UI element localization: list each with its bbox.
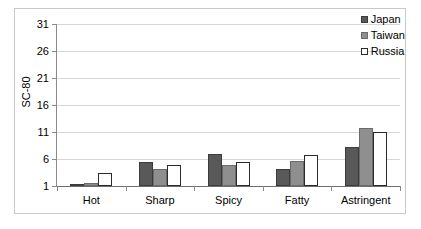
gridline <box>57 132 400 133</box>
y-axis-tick <box>52 105 57 106</box>
bar-russia-sharp <box>167 165 181 186</box>
bar-japan-sharp <box>139 162 153 186</box>
legend-swatch-icon <box>361 32 368 39</box>
legend-swatch-icon <box>361 16 368 23</box>
x-axis-line <box>56 186 400 187</box>
bar-russia-spicy <box>236 162 250 186</box>
x-axis-tick <box>400 186 401 191</box>
bar-taiwan-astringent <box>359 128 373 186</box>
bar-taiwan-spicy <box>222 165 236 186</box>
y-axis-tick-label: 1 <box>43 180 49 192</box>
y-axis-tick-label: 6 <box>43 153 49 165</box>
x-axis-tick-label: Spicy <box>215 194 242 206</box>
plot-area: 161116212631 HotSharpSpicyFattyAstringen… <box>57 24 400 186</box>
gridline <box>57 105 400 106</box>
bar-taiwan-fatty <box>290 161 304 186</box>
bar-russia-fatty <box>304 155 318 186</box>
x-axis-tick <box>126 186 127 191</box>
bar-russia-astringent <box>373 132 387 186</box>
y-axis-tick-label: 21 <box>37 72 49 84</box>
bar-taiwan-sharp <box>153 169 167 186</box>
x-axis-tick-label: Sharp <box>145 194 174 206</box>
y-axis-tick <box>52 132 57 133</box>
y-axis-tick <box>52 24 57 25</box>
x-axis-tick-label: Fatty <box>285 194 309 206</box>
x-axis-tick <box>57 186 58 191</box>
legend-item-label: Japan <box>371 14 401 25</box>
x-axis-tick-label: Hot <box>83 194 100 206</box>
x-axis-tick <box>194 186 195 191</box>
bar-japan-astringent <box>345 147 359 186</box>
y-axis-tick-label: 31 <box>37 18 49 30</box>
y-axis-tick-label: 16 <box>37 99 49 111</box>
legend-swatch-icon <box>361 48 368 55</box>
y-axis-tick <box>52 51 57 52</box>
x-axis-tick <box>331 186 332 191</box>
y-axis-label: SC-80 <box>20 62 32 122</box>
bar-taiwan-hot <box>84 183 98 186</box>
y-axis-tick <box>52 159 57 160</box>
gridline <box>57 51 400 52</box>
bar-japan-hot <box>70 184 84 186</box>
bar-japan-spicy <box>208 154 222 186</box>
legend: JapanTaiwanRussia <box>361 14 405 57</box>
bar-japan-fatty <box>276 169 290 186</box>
bar-chart-figure: SC-80 161116212631 HotSharpSpicyFattyAst… <box>0 0 421 229</box>
gridline <box>57 78 400 79</box>
legend-item-taiwan[interactable]: Taiwan <box>361 30 405 41</box>
bar-russia-hot <box>98 173 112 187</box>
legend-item-japan[interactable]: Japan <box>361 14 401 25</box>
legend-item-label: Taiwan <box>371 30 405 41</box>
legend-item-russia[interactable]: Russia <box>361 46 405 57</box>
x-axis-tick <box>263 186 264 191</box>
legend-item-label: Russia <box>371 46 405 57</box>
y-axis-tick <box>52 78 57 79</box>
gridline <box>57 24 400 25</box>
y-axis-tick-label: 26 <box>37 45 49 57</box>
x-axis-tick-label: Astringent <box>341 194 391 206</box>
y-axis-tick-label: 11 <box>38 126 49 138</box>
